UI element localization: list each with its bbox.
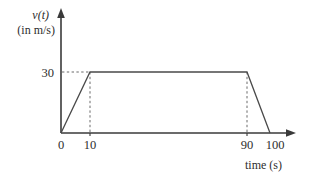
velocity-time-chart: v(t) (in m/s) 30 0 10 90 100 time (s) [0, 0, 317, 179]
velocity-time-graph-figure: v(t) (in m/s) 30 0 10 90 100 time (s) [0, 0, 317, 179]
y-axis-title-line2: (in m/s) [17, 23, 55, 37]
y-axis-arrow-icon [57, 8, 65, 18]
x-tick-label-10: 10 [84, 138, 97, 152]
velocity-curve [61, 72, 270, 133]
x-axis-title: time (s) [245, 158, 282, 172]
y-axis-title-line1: v(t) [32, 8, 49, 22]
x-tick-label-90: 90 [241, 138, 254, 152]
x-axis-arrow-icon [286, 129, 296, 137]
x-tick-label-0: 0 [58, 138, 64, 152]
x-tick-label-100: 100 [266, 138, 285, 152]
y-tick-label-30: 30 [42, 66, 55, 80]
